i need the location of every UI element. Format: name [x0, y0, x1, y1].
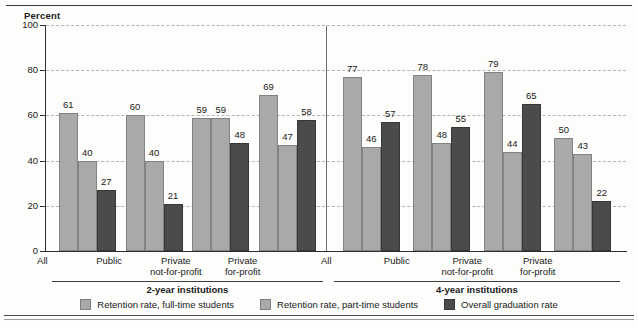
- bar-value-label: 22: [586, 188, 617, 198]
- legend-item: Overall graduation rate: [444, 299, 558, 310]
- top-divider: [6, 5, 632, 6]
- chart-legend: Retention rate, full-time studentsRetent…: [0, 299, 638, 310]
- bar: [554, 138, 573, 251]
- bar-value-label: 21: [158, 191, 189, 201]
- y-tick-20: [40, 206, 46, 207]
- bar: [362, 147, 381, 251]
- y-tick-0: [40, 251, 46, 252]
- bar: [259, 95, 278, 251]
- bar: [503, 152, 522, 251]
- y-tick-label-40: 40: [6, 156, 38, 166]
- gridline-100: [46, 25, 626, 26]
- y-tick-60: [40, 115, 46, 116]
- bottom-divider-thick: [4, 315, 634, 316]
- bar: [522, 104, 541, 251]
- legend-item: Retention rate, full-time students: [80, 299, 234, 310]
- legend-label: Overall graduation rate: [461, 299, 558, 310]
- group-underline: [52, 281, 323, 282]
- group-label: 4-year institutions: [334, 284, 620, 295]
- bar-value-label: 60: [120, 102, 151, 112]
- bottom-divider-thin: [4, 319, 634, 320]
- bar-value-label: 27: [91, 177, 122, 187]
- bar: [78, 161, 97, 251]
- bar: [451, 127, 470, 251]
- category-label-line1: Private: [523, 255, 553, 266]
- bar: [192, 118, 211, 251]
- bar: [413, 75, 432, 251]
- category-label-line2: for-profit: [520, 266, 555, 277]
- y-tick-label-100: 100: [6, 20, 38, 30]
- x-axis-line: [45, 251, 627, 252]
- category-label-line1: Public: [96, 255, 122, 266]
- bar: [381, 122, 400, 251]
- bar: [145, 161, 164, 251]
- bar-value-label: 78: [407, 62, 438, 72]
- category-label-line1: Private: [452, 255, 482, 266]
- bar-value-label: 40: [72, 148, 103, 158]
- bar: [432, 143, 451, 251]
- bar: [278, 145, 297, 251]
- legend-label: Retention rate, part-time students: [277, 299, 418, 310]
- y-tick-40: [40, 161, 46, 162]
- bar: [297, 120, 316, 251]
- bar: [97, 190, 116, 251]
- group-label: 2-year institutions: [52, 284, 323, 295]
- bar: [484, 72, 503, 251]
- category-label-line2: not-for-profit: [441, 266, 493, 277]
- bar-value-label: 58: [291, 107, 322, 117]
- legend-item: Retention rate, part-time students: [260, 299, 418, 310]
- bar: [59, 113, 78, 251]
- category-label-line2: for-profit: [225, 266, 260, 277]
- bar-value-label: 65: [516, 91, 547, 101]
- bar-value-label: 61: [53, 100, 84, 110]
- y-tick-label-60: 60: [6, 110, 38, 120]
- bar-value-label: 69: [253, 82, 284, 92]
- y-tick-80: [40, 70, 46, 71]
- y-tick-100: [40, 25, 46, 26]
- y-tick-label-80: 80: [6, 65, 38, 75]
- category-label-line2: not-for-profit: [150, 266, 202, 277]
- bar-value-label: 59: [205, 105, 236, 115]
- bar: [164, 204, 183, 251]
- bar-value-label: 77: [337, 64, 368, 74]
- bar: [592, 201, 611, 251]
- category-label: Privatefor-profit: [198, 255, 288, 277]
- category-label-line1: All: [37, 255, 48, 266]
- bar: [126, 115, 145, 251]
- legend-swatch: [444, 299, 455, 310]
- group-underline: [334, 281, 620, 282]
- bar-value-label: 55: [445, 114, 476, 124]
- y-tick-label-20: 20: [6, 201, 38, 211]
- category-label: Privatefor-profit: [493, 255, 583, 277]
- plot-area: 020406080100 614027604021595948694758774…: [46, 25, 626, 251]
- category-label-line1: All: [321, 255, 332, 266]
- section-separator: [326, 26, 327, 251]
- bar-value-label: 79: [478, 59, 509, 69]
- legend-swatch: [80, 299, 91, 310]
- bar-value-label: 57: [375, 109, 406, 119]
- category-label-line1: Private: [228, 255, 258, 266]
- legend-label: Retention rate, full-time students: [97, 299, 234, 310]
- category-label-line1: Private: [161, 255, 191, 266]
- bar-value-label: 43: [567, 141, 598, 151]
- bar: [573, 154, 592, 251]
- chart-page: Percent 020406080100 6140276040215959486…: [0, 0, 638, 329]
- bar: [343, 77, 362, 251]
- category-label-line1: Public: [384, 255, 410, 266]
- bar: [230, 143, 249, 251]
- bar-value-label: 40: [139, 148, 170, 158]
- bar-value-label: 50: [548, 125, 579, 135]
- legend-swatch: [260, 299, 271, 310]
- bar-value-label: 48: [224, 130, 255, 140]
